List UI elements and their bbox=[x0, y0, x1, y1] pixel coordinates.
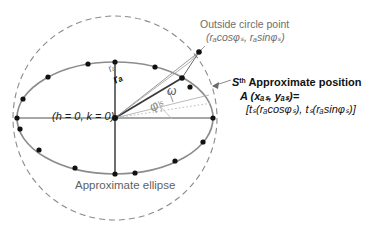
label-leader-arrow bbox=[212, 82, 219, 89]
outside-circle-point-title: Outside circle point bbox=[200, 18, 289, 30]
projection-connector bbox=[182, 52, 199, 78]
outside-label-leader bbox=[201, 46, 205, 50]
approximate-position-heading: Sth Approximate position bbox=[232, 76, 362, 88]
figure-canvas: Outside circle point (rₐcosφₛ, rₐsinφₛ) … bbox=[0, 0, 366, 243]
outside-circle-point-formula: (rₐcosφₛ, rₐsinφₛ) bbox=[206, 31, 289, 43]
center-coordinates-label: (h = 0, k = 0) bbox=[52, 110, 114, 123]
approximate-position-coords: A (xₐₛ, yₐₛ)= bbox=[240, 90, 362, 103]
outside-circle-point-marker bbox=[196, 49, 202, 55]
approximate-position-expression: [tₛ(rₐcosφₛ), tₛ(rₐsinφₛ)] bbox=[246, 103, 362, 116]
outside-circle-point-label: Outside circle point (rₐcosφₛ, rₐsinφₛ) bbox=[200, 18, 289, 43]
approximate-position-label: Sth Approximate position A (xₐₛ, yₐₛ)= [… bbox=[232, 76, 362, 116]
approximate-position-heading-rest: Approximate position bbox=[246, 76, 362, 88]
omega-angle-label: ω bbox=[167, 84, 176, 98]
approximate-ellipse-label: Approximate ellipse bbox=[75, 179, 175, 192]
